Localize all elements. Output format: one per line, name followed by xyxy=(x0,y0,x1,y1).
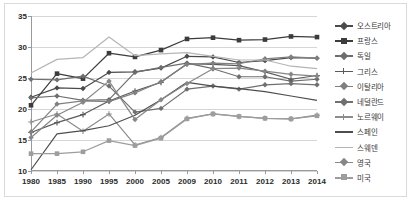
legend-item-스페인[interactable]: 스페인 xyxy=(335,124,411,139)
legend-label: 프랑스 xyxy=(357,35,377,46)
x-axis-tick-label: 2010 xyxy=(204,177,222,186)
data-point-marker xyxy=(184,54,189,59)
legend-marker-icon xyxy=(335,66,353,77)
data-point-marker xyxy=(314,55,319,60)
series-네덜란드 xyxy=(28,73,319,114)
data-point-marker xyxy=(263,116,268,121)
legend-marker-icon xyxy=(335,172,353,183)
legend-marker-icon xyxy=(335,142,353,153)
chart-container: 101520253035 198019851990199520002005200… xyxy=(4,3,407,197)
plot-wrapper: 101520253035 198019851990199520002005200… xyxy=(31,16,317,171)
legend-marker-icon xyxy=(335,35,353,46)
data-point-marker xyxy=(159,48,164,53)
x-axis-tick-mark xyxy=(291,171,292,174)
x-axis-tick-label: 2013 xyxy=(282,177,300,186)
data-point-marker xyxy=(106,70,111,75)
data-point-marker xyxy=(314,73,319,78)
series-line xyxy=(31,63,317,100)
y-axis-tick-label: 10 xyxy=(18,167,27,176)
data-point-marker xyxy=(55,151,60,156)
x-axis-tick-mark xyxy=(317,171,318,174)
y-axis-tick-label: 15 xyxy=(18,136,27,145)
data-point-marker xyxy=(29,103,34,108)
gridline xyxy=(31,171,317,172)
data-point-marker xyxy=(315,35,320,40)
legend-label: 이탈리아 xyxy=(357,81,384,92)
data-point-marker xyxy=(237,38,242,43)
data-point-marker xyxy=(107,138,112,143)
series-line xyxy=(31,37,317,73)
series-line xyxy=(31,114,317,154)
y-axis-tick-label: 35 xyxy=(18,12,27,21)
data-point-marker xyxy=(133,143,138,148)
legend-label: 그리스 xyxy=(357,66,377,77)
x-axis-tick-mark xyxy=(83,171,84,174)
legend-item-미국[interactable]: 미국 xyxy=(335,170,411,185)
x-axis-tick-label: 2005 xyxy=(152,177,170,186)
data-point-marker xyxy=(158,65,163,70)
legend-label: 미국 xyxy=(357,172,371,183)
y-axis-tick-label: 20 xyxy=(18,105,27,114)
legend-label: 영국 xyxy=(357,157,371,168)
data-point-marker xyxy=(262,68,267,73)
legend-marker-icon xyxy=(335,81,353,92)
legend-marker-icon xyxy=(335,157,353,168)
series-이탈리아 xyxy=(28,54,319,134)
legend-item-이탈리아[interactable]: 이탈리아 xyxy=(335,79,411,94)
series-lines xyxy=(31,16,317,171)
data-point-marker xyxy=(289,34,294,39)
x-axis-tick-label: 2000 xyxy=(126,177,144,186)
legend-item-노르웨이[interactable]: 노르웨이 xyxy=(335,109,411,124)
series-line xyxy=(31,82,317,169)
series-스페인 xyxy=(31,82,317,169)
legend-marker-icon xyxy=(335,111,353,122)
data-point-marker xyxy=(288,72,293,77)
data-point-marker xyxy=(237,114,242,119)
legend-label: 독일 xyxy=(357,50,371,61)
series-line xyxy=(31,36,317,105)
data-point-marker xyxy=(80,86,85,91)
legend-item-스웨덴[interactable]: 스웨덴 xyxy=(335,140,411,155)
legend-item-영국[interactable]: 영국 xyxy=(335,155,411,170)
legend-item-오스트리아[interactable]: 오스트리아 xyxy=(335,18,411,33)
data-point-marker xyxy=(288,54,293,59)
data-point-marker xyxy=(315,114,320,119)
data-point-marker xyxy=(159,136,164,141)
series-독일 xyxy=(28,60,319,103)
plot-area: 101520253035 198019851990199520002005200… xyxy=(31,16,317,171)
x-axis-tick-mark xyxy=(57,171,58,174)
legend-label: 스페인 xyxy=(357,126,377,137)
data-point-marker xyxy=(262,82,267,87)
x-axis-tick-mark xyxy=(109,171,110,174)
data-point-marker xyxy=(107,51,112,56)
x-axis-tick-label: 2014 xyxy=(308,177,326,186)
legend-item-독일[interactable]: 독일 xyxy=(335,48,411,63)
data-point-marker xyxy=(262,74,267,79)
data-point-marker xyxy=(314,82,319,87)
data-point-marker xyxy=(211,112,216,117)
legend-item-네덜란드[interactable]: 네덜란드 xyxy=(335,94,411,109)
chart-legend: 오스트리아프랑스독일그리스이탈리아네덜란드노르웨이스페인스웨덴영국미국 xyxy=(335,18,411,185)
legend-marker-icon xyxy=(335,96,353,107)
data-point-marker xyxy=(289,117,294,122)
data-point-marker xyxy=(184,81,189,86)
data-point-marker xyxy=(185,37,190,42)
legend-label: 네덜란드 xyxy=(357,96,384,107)
data-point-marker xyxy=(210,66,215,71)
x-axis-tick-mark xyxy=(31,171,32,174)
data-point-marker xyxy=(263,37,268,42)
x-axis-tick-label: 2012 xyxy=(256,177,274,186)
data-point-marker xyxy=(80,112,86,118)
legend-item-프랑스[interactable]: 프랑스 xyxy=(335,33,411,48)
x-axis-tick-mark xyxy=(239,171,240,174)
x-axis-tick-mark xyxy=(265,171,266,174)
x-axis-tick-mark xyxy=(161,171,162,174)
x-axis-tick-label: 2009 xyxy=(178,177,196,186)
data-point-marker xyxy=(54,93,59,98)
legend-item-그리스[interactable]: 그리스 xyxy=(335,64,411,79)
data-point-marker xyxy=(29,151,34,156)
data-point-marker xyxy=(55,71,60,76)
y-axis-tick-label: 25 xyxy=(18,74,27,83)
series-프랑스 xyxy=(29,34,320,107)
x-axis-tick-mark xyxy=(135,171,136,174)
